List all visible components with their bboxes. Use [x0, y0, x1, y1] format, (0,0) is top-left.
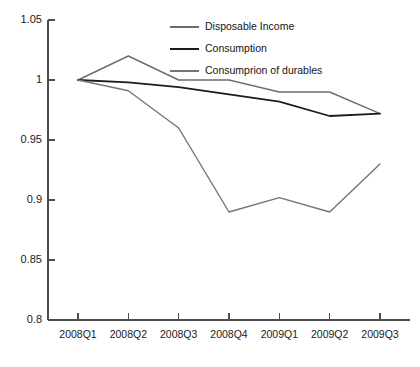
line-chart: 1.0510.950.90.850.8 2008Q12008Q22008Q320… — [0, 0, 420, 367]
legend-swatches — [170, 27, 199, 71]
x-tick-label: 2008Q1 — [52, 329, 104, 340]
y-tick-label: 0.85 — [21, 254, 42, 265]
x-tick-label: 2008Q2 — [102, 329, 154, 340]
series-lines — [78, 56, 380, 212]
x-tick-label: 2009Q3 — [354, 329, 406, 340]
y-tick-label: 0.9 — [27, 194, 42, 205]
x-tick-label: 2009Q2 — [304, 329, 356, 340]
series-line-2 — [78, 80, 380, 212]
x-tick-label: 2009Q1 — [253, 329, 305, 340]
x-tick-label: 2008Q4 — [203, 329, 255, 340]
y-tick-label: 0.95 — [21, 134, 42, 145]
plot-area — [0, 0, 420, 367]
x-tick-label: 2008Q3 — [153, 329, 205, 340]
y-tick-label: 1 — [36, 74, 42, 85]
legend-label: Disposable Income — [205, 21, 294, 32]
series-line-1 — [78, 80, 380, 116]
y-tick-label: 1.05 — [21, 14, 42, 25]
legend-label: Consumprion of durables — [205, 65, 322, 76]
y-tick-label: 0.8 — [27, 314, 42, 325]
legend-label: Consumption — [205, 43, 267, 54]
